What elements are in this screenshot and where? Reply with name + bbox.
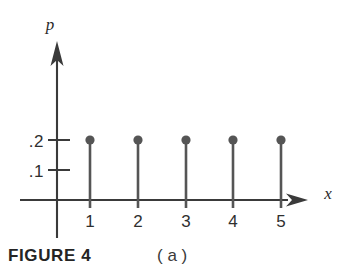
x-tick-label-5: 5	[276, 212, 285, 231]
stem-series	[85, 135, 285, 208]
stem-item	[181, 135, 190, 208]
stem-marker-dot	[181, 135, 190, 144]
x-tick-label-4: 4	[228, 212, 237, 231]
x-tick-label-3: 3	[181, 212, 190, 231]
stem-marker-dot	[276, 135, 285, 144]
stem-plot-chart: p x .2 .1	[0, 0, 360, 245]
stem-item	[85, 135, 94, 208]
figure-container: p x .2 .1	[0, 0, 360, 275]
stem-item	[276, 135, 285, 208]
stem-item	[228, 135, 237, 208]
y-axis-label: p	[45, 15, 55, 34]
y-tick-label-0.1: .1	[29, 162, 44, 181]
stem-marker-dot	[228, 135, 237, 144]
stem-marker-dot	[85, 135, 94, 144]
x-tick-label-2: 2	[133, 212, 142, 231]
stem-marker-dot	[133, 135, 142, 144]
y-tick-label-0.2: .2	[29, 132, 44, 151]
x-axis-arrowhead	[286, 194, 308, 207]
figure-title: FIGURE 4	[8, 246, 91, 266]
figure-caption-row: FIGURE 4 ( a )	[0, 244, 360, 275]
x-axis-label: x	[323, 184, 332, 203]
x-tick-label-1: 1	[85, 212, 94, 231]
stem-item	[133, 135, 142, 208]
panel-label: ( a )	[157, 246, 187, 266]
